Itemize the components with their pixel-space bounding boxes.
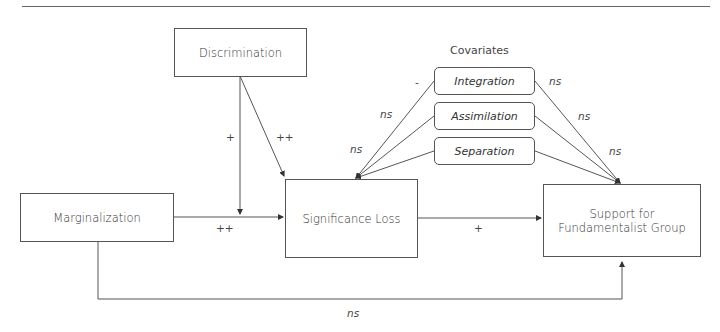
covariates-title: Covariates [450, 44, 509, 57]
path-lines [0, 0, 720, 332]
marginalization-to-support-label: ns [347, 307, 359, 319]
significance-loss-label: Significance Loss [302, 212, 400, 226]
support-label-line1: Support for [590, 207, 655, 221]
covariate-integration: Integration [434, 67, 535, 95]
support-label-line2: Fundamentalist Group [558, 221, 686, 235]
integration-to-significance-label: - [415, 76, 419, 88]
covariate-integration-label: Integration [454, 75, 515, 88]
separation-to-support-label: ns [609, 145, 621, 157]
assimilation-to-support-label: ns [578, 110, 590, 122]
discrimination-label: Discrimination [199, 46, 282, 60]
discrimination-moderation-label: + [226, 131, 235, 143]
discrimination-node: Discrimination [174, 28, 307, 77]
support-node: Support for Fundamentalist Group [543, 184, 701, 257]
marginalization-node: Marginalization [20, 193, 174, 242]
marginalization-label: Marginalization [53, 211, 140, 225]
covariate-assimilation: Assimilation [434, 102, 535, 130]
separation-to-significance-label: ns [350, 143, 362, 155]
assimilation-to-significance-label: ns [380, 108, 392, 120]
significance-to-support-label: + [474, 222, 483, 234]
covariate-assimilation-label: Assimilation [451, 110, 518, 123]
integration-to-support-label: ns [549, 75, 561, 87]
marginalization-to-significance-label: ++ [216, 222, 234, 234]
discrimination-to-significance-label: ++ [276, 131, 294, 143]
significance-loss-node: Significance Loss [285, 179, 418, 258]
covariate-separation-label: Separation [455, 145, 515, 158]
covariate-separation: Separation [434, 137, 535, 165]
